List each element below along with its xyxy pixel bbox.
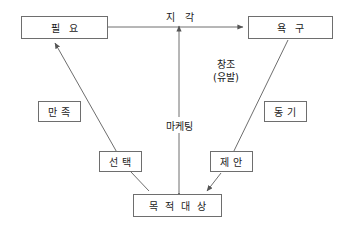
node-want-label: 욕 구: [274, 20, 307, 35]
edge-label-perception-text: 지 각: [166, 12, 196, 23]
node-proposal: 제 안: [210, 151, 253, 172]
node-choice: 선 택: [99, 151, 142, 172]
center-note-line1: 창조: [196, 58, 256, 71]
node-satisfaction-label: 만 족: [48, 104, 71, 119]
node-want: 욕 구: [248, 16, 333, 39]
node-motivation: 동 기: [264, 101, 307, 122]
edge-label-marketing: 마케팅: [155, 118, 204, 133]
center-note-line2: (유발): [196, 71, 256, 84]
node-motivation-label: 동 기: [274, 104, 297, 119]
edge-label-perception: 지 각: [150, 9, 210, 24]
diagram-canvas: 필 요 욕 구 만 족 동 기 선 택 제 안 목 적 대 상 지 각 마케팅 …: [0, 0, 347, 231]
node-target: 목 적 대 상: [133, 194, 222, 217]
edge-choice-to-need: [55, 43, 119, 156]
node-need-label: 필 요: [48, 20, 81, 35]
edge-proposal-to-target: [207, 173, 221, 191]
center-note: 창조 (유발): [196, 58, 256, 84]
node-proposal-label: 제 안: [220, 154, 243, 169]
node-need: 필 요: [21, 16, 108, 39]
node-choice-label: 선 택: [109, 154, 132, 169]
edge-target-to-choice: [131, 172, 149, 191]
node-target-label: 목 적 대 상: [147, 198, 209, 213]
node-satisfaction: 만 족: [38, 101, 81, 122]
edge-label-marketing-text: 마케팅: [166, 121, 193, 132]
